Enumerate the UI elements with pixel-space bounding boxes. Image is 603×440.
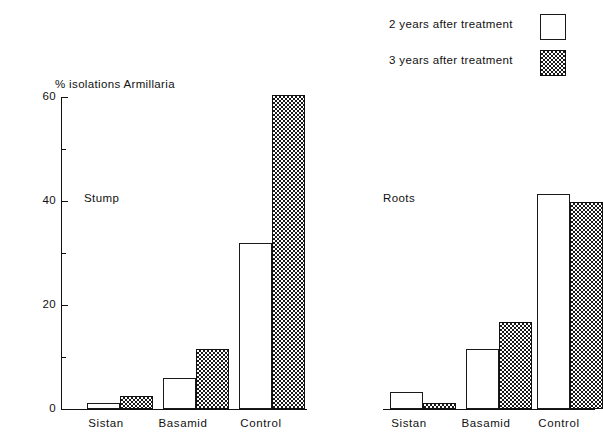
legend-swatch-white-square — [540, 14, 566, 40]
y-axis-title: % isolations Armillaria — [55, 78, 175, 90]
y-tick-label-0: 0 — [16, 402, 56, 414]
x-label-stump-basamid: Basamid — [152, 417, 214, 429]
x-label-roots-basamid: Basamid — [455, 417, 517, 429]
legend-label-3-years: 3 years after treatment — [389, 54, 513, 66]
bar-stump-sistan-3years — [120, 396, 153, 409]
bar-roots-basamid-2years — [466, 349, 499, 409]
legend-entry-3-years: 3 years after treatment — [389, 50, 589, 76]
x-label-roots-control: Control — [529, 417, 589, 429]
y-tick-label-40-wrap: 40 — [12, 194, 56, 208]
y-tick-30 — [61, 253, 66, 254]
legend-label-2-years: 2 years after treatment — [389, 18, 513, 30]
y-tick-label-40: 40 — [16, 194, 56, 206]
y-tick-label-20-wrap: 20 — [12, 298, 56, 312]
y-tick-60 — [61, 97, 68, 98]
y-tick-40 — [61, 201, 68, 202]
panel-title-roots: Roots — [383, 192, 415, 204]
bar-roots-control-2years — [537, 194, 570, 409]
x-label-stump-control: Control — [231, 417, 291, 429]
y-tick-10 — [61, 357, 66, 358]
x-label-roots-sistan: Sistan — [381, 417, 437, 429]
y-tick-label-20: 20 — [16, 298, 56, 310]
legend-entry-2-years: 2 years after treatment — [389, 14, 589, 40]
bar-roots-sistan-3years — [423, 403, 456, 409]
y-tick-label-60-wrap: 60 — [12, 90, 56, 104]
bar-stump-sistan-2years — [87, 403, 120, 409]
legend-swatch-checkered-square — [540, 50, 566, 76]
bar-stump-control-2years — [239, 243, 272, 409]
panel-title-stump: Stump — [84, 192, 119, 204]
bar-roots-sistan-2years — [390, 392, 423, 409]
x-label-stump-sistan: Sistan — [78, 417, 134, 429]
legend: 2 years after treatment 3 years after tr… — [389, 14, 589, 76]
bar-stump-control-3years — [272, 95, 305, 409]
bar-roots-basamid-3years — [499, 322, 532, 409]
stump-baseline — [61, 409, 307, 410]
bar-stump-basamid-3years — [196, 349, 229, 409]
roots-baseline — [383, 409, 595, 410]
y-tick-50 — [61, 149, 66, 150]
bar-stump-basamid-2years — [163, 378, 196, 409]
y-tick-label-60: 60 — [16, 90, 56, 102]
y-tick-20 — [61, 305, 68, 306]
bar-roots-control-3years — [570, 202, 603, 409]
y-tick-label-0-wrap: 0 — [12, 402, 56, 416]
